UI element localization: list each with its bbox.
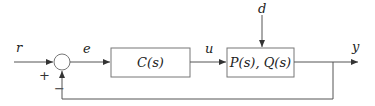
minus-sign: − bbox=[54, 81, 65, 96]
controller-label: C(s) bbox=[137, 55, 164, 70]
control-label: u bbox=[205, 41, 213, 56]
output-label: y bbox=[351, 39, 360, 54]
error-label: e bbox=[83, 41, 91, 56]
plus-sign: + bbox=[39, 68, 50, 83]
summing-junction bbox=[54, 54, 70, 70]
disturbance-label: d bbox=[258, 1, 266, 16]
block-diagram: r + − e C(s) u d P(s), Q(s) y bbox=[0, 0, 375, 106]
plant-label: P(s), Q(s) bbox=[229, 55, 291, 70]
reference-label: r bbox=[16, 40, 23, 55]
